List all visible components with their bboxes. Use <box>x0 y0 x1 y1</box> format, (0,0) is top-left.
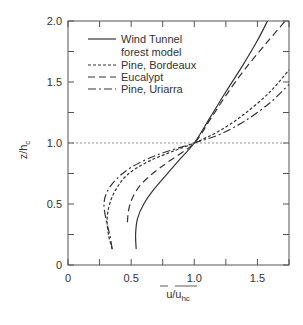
x-tick-label: 1.5 <box>250 272 265 284</box>
x-tick-label: 0.5 <box>123 272 138 284</box>
legend-label: Pine, Uriarra <box>121 83 184 95</box>
y-tick-label: 1.0 <box>47 137 62 149</box>
wind-profile-chart: 00.51.01.500.51.01.52.0 Wind Tunnelfores… <box>0 0 303 325</box>
series-line-pine-bordeaux <box>107 70 289 249</box>
y-tick-label: 0.5 <box>47 198 62 210</box>
legend: Wind Tunnelforest modelPine, BordeauxEuc… <box>88 33 197 95</box>
legend-label: Wind Tunnel <box>121 33 182 45</box>
legend-label: Pine, Bordeaux <box>121 59 197 71</box>
y-tick-label: 0 <box>56 259 62 271</box>
series-line-pine-uriarra <box>104 84 289 249</box>
x-tick-label: 1.0 <box>187 272 202 284</box>
x-axis-label: u/uhc <box>166 288 190 303</box>
y-axis-label: z/hc <box>17 141 32 160</box>
legend-label: forest model <box>121 46 182 58</box>
y-tick-label: 1.5 <box>47 76 62 88</box>
legend-label: Eucalypt <box>121 71 163 83</box>
y-tick-label: 2.0 <box>47 15 62 27</box>
x-tick-label: 0 <box>65 272 71 284</box>
